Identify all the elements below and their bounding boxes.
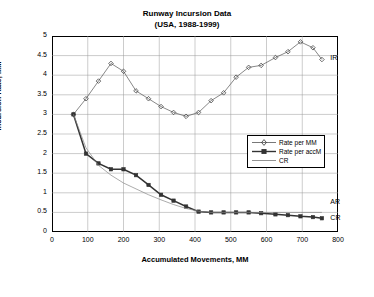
annotation-ir: IR <box>330 54 337 61</box>
y-tick-label: 4.5 <box>21 51 47 58</box>
y-tick-label: 0.5 <box>21 207 47 214</box>
y-tick-label: 1 <box>21 188 47 195</box>
legend-marker-line-icon <box>251 156 277 165</box>
x-tick-label: 200 <box>111 236 137 243</box>
x-tick-label: 700 <box>289 236 315 243</box>
legend: Rate per MM Rate per accM CR <box>247 135 325 168</box>
x-tick-label: 800 <box>325 236 351 243</box>
x-tick-label: 500 <box>218 236 244 243</box>
data-series-layer <box>52 36 338 232</box>
y-tick-label: 4 <box>21 70 47 77</box>
y-tick-label: 2.5 <box>21 129 47 136</box>
y-tick-label: 0 <box>21 227 47 234</box>
y-tick-label: 3.5 <box>21 90 47 97</box>
y-tick-label: 3 <box>21 109 47 116</box>
chart-subtitle: (USA, 1988-1999) <box>0 19 374 30</box>
annotation-cr: CR <box>330 214 340 221</box>
x-tick-label: 100 <box>75 236 101 243</box>
x-axis-label: Accumulated Movements, MM <box>52 255 338 264</box>
y-tick-label: 5 <box>21 31 47 38</box>
x-tick-label: 600 <box>254 236 280 243</box>
chart-title-block: Runway Incursion Data (USA, 1988-1999) <box>0 8 374 30</box>
x-tick-label: 0 <box>39 236 65 243</box>
legend-label-rate-per-accm: Rate per accM <box>279 148 321 155</box>
y-axis-label: Incursion Rate, MM <box>0 62 3 131</box>
legend-item-rate-per-mm: Rate per MM <box>251 138 321 147</box>
annotation-ar: AR <box>330 198 340 205</box>
legend-marker-square-icon <box>251 147 277 156</box>
legend-item-rate-per-accm: Rate per accM <box>251 147 321 156</box>
chart-title: Runway Incursion Data <box>0 8 374 19</box>
x-tick-label: 400 <box>182 236 208 243</box>
y-tick-label: 2 <box>21 149 47 156</box>
plot-area <box>52 36 338 232</box>
y-tick-label: 1.5 <box>21 168 47 175</box>
legend-marker-diamond-icon <box>251 138 277 147</box>
legend-label-cr: CR <box>279 157 288 164</box>
chart-container: Runway Incursion Data (USA, 1988-1999) I… <box>0 0 374 297</box>
x-tick-label: 300 <box>146 236 172 243</box>
legend-label-rate-per-mm: Rate per MM <box>279 139 317 146</box>
legend-item-cr: CR <box>251 156 321 165</box>
